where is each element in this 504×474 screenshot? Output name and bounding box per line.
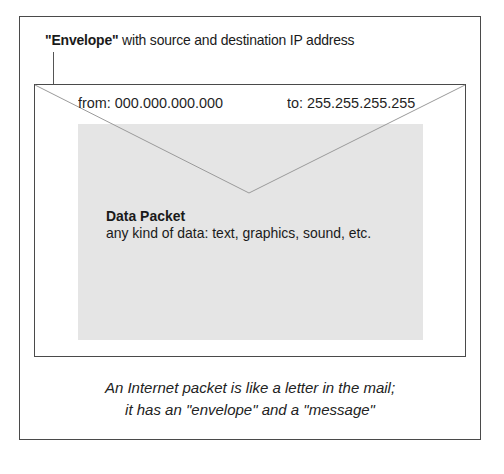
envelope-callout-label: "Envelope" with source and destination I… [45, 31, 354, 48]
destination-ip-address: to: 255.255.255.255 [287, 94, 415, 112]
callout-line [53, 52, 54, 85]
data-packet-description: any kind of data: text, graphics, sound,… [106, 224, 371, 241]
envelope-description: with source and destination IP address [118, 31, 354, 48]
caption-line-1: An Internet packet is like a letter in t… [19, 379, 481, 396]
data-packet-title: Data Packet [106, 207, 185, 224]
caption-line-2: it has an "envelope" and a "message" [19, 401, 481, 418]
source-ip-address: from: 000.000.000.000 [78, 94, 223, 112]
envelope-term: "Envelope" [45, 31, 118, 48]
